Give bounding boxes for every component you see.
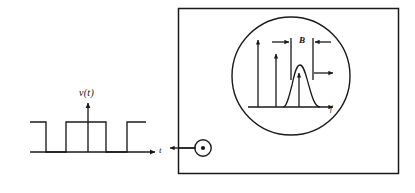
spectrum-envelope-curve xyxy=(283,65,320,107)
figure-root: v(t) t B f xyxy=(0,0,415,193)
bandwidth-label: B xyxy=(299,36,305,45)
time-plot-x-axis-label: t xyxy=(159,146,162,155)
figure-svg xyxy=(0,0,415,193)
spectrum-x-axis-label: f xyxy=(330,105,332,113)
spectrum-trace-group xyxy=(248,38,333,107)
input-connector-jack[interactable] xyxy=(195,140,211,156)
input-connector-pin xyxy=(201,146,205,150)
time-plot-y-axis-label: v(t) xyxy=(79,88,94,98)
time-domain-plot xyxy=(30,103,155,152)
